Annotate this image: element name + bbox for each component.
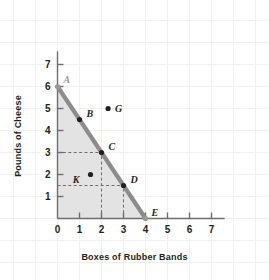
point-label-k: K [72,174,81,185]
production-possibilities-chart: 012345671234567 ABCDEGK [0,0,269,280]
point-label-g: G [115,103,123,114]
y-tick-label: 1 [45,191,51,202]
x-tick-label: 2 [99,224,105,235]
y-tick-label: 7 [45,59,51,70]
data-point-g: G [106,103,124,114]
x-tick-label: 4 [143,224,149,235]
chart-figure: 012345671234567 ABCDEGK Boxes of Rubber … [0,0,269,280]
y-tick-label: 3 [45,147,51,158]
point-label-c: C [109,141,116,152]
y-tick-label: 4 [45,125,51,136]
y-tick-label: 5 [45,103,51,114]
x-axis-title: Boxes of Rubber Bands [0,252,269,262]
x-tick-label: 7 [209,224,215,235]
y-tick-label: 6 [45,81,51,92]
point-label-e: E [151,207,159,218]
x-tick-label: 3 [121,224,127,235]
point-label-b: B [86,108,94,119]
x-tick-label: 6 [187,224,193,235]
grid-lines [0,0,269,280]
point-label-a: A [63,74,71,85]
x-tick-label: 5 [165,224,171,235]
x-tick-label: 1 [77,224,83,235]
y-tick-label: 2 [45,169,51,180]
x-tick-label: 0 [55,224,61,235]
point-label-d: D [130,174,138,185]
y-axis-title: Pounds of Cheese [13,56,23,216]
